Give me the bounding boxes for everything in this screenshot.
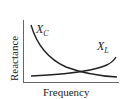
xc-label: XC bbox=[35, 22, 49, 38]
reactance-frequency-diagram: XC XL Reactance Frequency bbox=[0, 0, 123, 99]
xl-label: XL bbox=[96, 39, 109, 55]
xl-curve bbox=[31, 57, 116, 76]
x-axis-label: Frequency bbox=[43, 86, 90, 98]
y-axis-label: Reactance bbox=[8, 36, 20, 81]
